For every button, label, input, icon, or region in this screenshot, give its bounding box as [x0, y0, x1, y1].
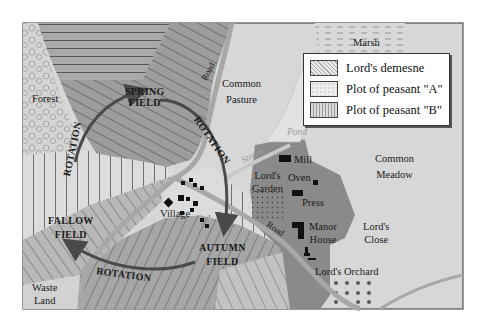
- waste-land-label: Waste Land: [32, 282, 57, 306]
- press-building: [292, 190, 303, 196]
- common-meadow-label: Common Meadow: [375, 153, 414, 180]
- map-legend: Lord's demesne Plot of peasant "A" Plot …: [303, 53, 450, 126]
- marsh-label: Marsh: [353, 37, 380, 48]
- fallow-field-label: FALLOW FIELD: [48, 216, 94, 240]
- manor-house-label: Manor House: [309, 221, 337, 245]
- lords-garden-label: Lord's Garden: [252, 170, 283, 194]
- autumn-field-label: AUTUMN FIELD: [199, 243, 246, 267]
- mill-label: Mill: [294, 154, 312, 165]
- lords-orchard-label: Lord's Orchard: [315, 266, 378, 277]
- forest-label: Forest: [32, 93, 58, 104]
- legend-item-demesne: Lord's demesne: [310, 59, 424, 77]
- legend-item-peasant-b: Plot of peasant "B": [310, 101, 442, 119]
- pond-label: Pond: [287, 128, 307, 138]
- press-label: Press: [302, 197, 324, 208]
- oven-label: Oven: [288, 172, 311, 183]
- legend-item-peasant-a: Plot of peasant "A": [310, 80, 443, 98]
- demesne-swatch-icon: [310, 60, 338, 76]
- peasant-b-swatch-icon: [310, 102, 338, 118]
- mill-building: [279, 155, 291, 162]
- manor-house-building: [298, 222, 304, 239]
- lords-garden-dots: [252, 192, 284, 220]
- lords-close-label: Lord's Close: [363, 221, 389, 245]
- spring-field-label: SPRING FIELD: [125, 87, 165, 108]
- village-label: Village: [160, 208, 190, 219]
- oven-building: [313, 180, 318, 185]
- peasant-a-swatch-icon: [310, 81, 338, 97]
- common-pasture-label: Common Pasture: [222, 78, 261, 105]
